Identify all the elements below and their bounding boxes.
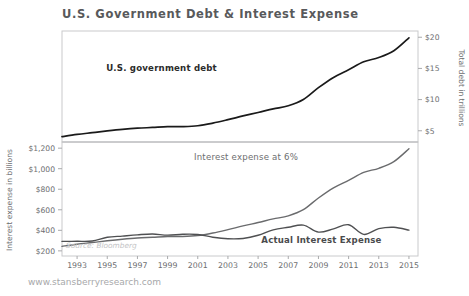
svg-text:$20: $20 <box>425 33 440 42</box>
left-axis-labels: $1,200$1,000$800$600$400$200 <box>28 144 55 256</box>
annotation-interest-at-6-percent: Interest expense at 6% <box>194 152 298 162</box>
svg-text:$600: $600 <box>36 206 55 215</box>
series-line-government-debt <box>62 38 409 137</box>
svg-text:2015: 2015 <box>399 261 419 270</box>
svg-text:2013: 2013 <box>369 261 389 270</box>
svg-text:$400: $400 <box>36 226 55 235</box>
debt-interest-chart: U.S. Government Debt & Interest Expense … <box>0 0 469 296</box>
chart-container: U.S. Government Debt & Interest Expense … <box>0 0 469 296</box>
svg-text:$200: $200 <box>36 247 55 256</box>
svg-text:2009: 2009 <box>309 261 329 270</box>
svg-text:$15: $15 <box>425 64 440 73</box>
svg-text:2007: 2007 <box>278 261 298 270</box>
svg-text:1993: 1993 <box>67 261 87 270</box>
svg-text:2011: 2011 <box>339 261 359 270</box>
series-annotations: U.S. government debtInterest expense at … <box>106 63 381 245</box>
svg-text:$1,000: $1,000 <box>28 165 55 174</box>
svg-text:$10: $10 <box>425 95 440 104</box>
svg-text:$5: $5 <box>425 127 435 136</box>
svg-text:1995: 1995 <box>97 261 117 270</box>
source-note: Source: Bloomberg <box>66 241 137 250</box>
svg-text:$800: $800 <box>36 185 55 194</box>
right-axis-title: Total debt in trillions <box>457 48 466 126</box>
svg-text:2005: 2005 <box>248 261 268 270</box>
x-axis-labels: 1993199519971999200120032005200720092011… <box>67 261 419 270</box>
annotation-actual-interest-expense: Actual Interest Expense <box>261 235 381 245</box>
chart-title: U.S. Government Debt & Interest Expense <box>62 7 359 21</box>
left-axis-title: Interest expense in billions <box>5 149 14 251</box>
svg-text:2003: 2003 <box>218 261 238 270</box>
annotation-government-debt: U.S. government debt <box>106 63 217 73</box>
series-line-interest-at-6-percent <box>62 149 409 247</box>
svg-text:$1,200: $1,200 <box>28 144 55 153</box>
svg-text:1997: 1997 <box>128 261 148 270</box>
right-axis-labels: $20$15$10$5 <box>425 33 440 136</box>
svg-text:1999: 1999 <box>158 261 178 270</box>
footer-url: www.stansberryresearch.com <box>28 277 161 287</box>
svg-text:2001: 2001 <box>188 261 208 270</box>
